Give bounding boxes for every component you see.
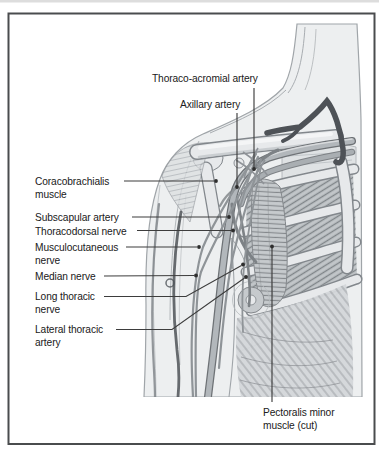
label-lateral-thoracic-artery: Lateral thoracic artery — [35, 323, 103, 349]
label-text: Thoraco-acromial artery — [152, 72, 258, 85]
label-text: Long thoracic — [35, 290, 95, 303]
label-coracobrachialis-muscle: Coracobrachialis muscle — [35, 175, 109, 201]
label-text: nerve — [35, 254, 118, 267]
label-text: Axillary artery — [180, 98, 240, 111]
label-axillary-artery: Axillary artery — [180, 98, 240, 111]
label-subscapular-artery: Subscapular artery — [35, 211, 119, 224]
label-text: muscle — [35, 188, 109, 201]
label-text: Musculocutaneous — [35, 241, 118, 254]
label-text: artery — [35, 336, 103, 349]
label-pectoralis-minor-muscle: Pectoralis minor muscle (cut) — [263, 406, 334, 432]
label-text: Coracobrachialis — [35, 175, 109, 188]
scan-artifact-bar — [0, 0, 379, 3]
label-text: Median nerve — [35, 270, 96, 283]
label-text: Thoracodorsal nerve — [35, 225, 127, 238]
label-long-thoracic-nerve: Long thoracic nerve — [35, 290, 95, 316]
label-text: Lateral thoracic — [35, 323, 103, 336]
label-text: muscle (cut) — [263, 419, 334, 432]
pectoralis-minor-art — [251, 179, 287, 307]
label-text: nerve — [35, 303, 95, 316]
muscle-stump — [233, 282, 270, 319]
anatomy-figure-page: Thoraco-acromial artery Axillary artery … — [0, 0, 379, 454]
label-thoracodorsal-nerve: Thoracodorsal nerve — [35, 225, 127, 238]
label-thoraco-acromial-artery: Thoraco-acromial artery — [152, 72, 258, 85]
label-median-nerve: Median nerve — [35, 270, 96, 283]
label-musculocutaneous-nerve: Musculocutaneous nerve — [35, 241, 118, 267]
label-text: Pectoralis minor — [263, 406, 334, 419]
label-text: Subscapular artery — [35, 211, 119, 224]
